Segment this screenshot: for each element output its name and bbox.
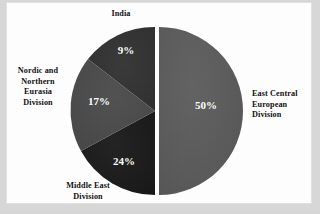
category-label-east-central-european-division: East Central European Division	[252, 89, 318, 121]
category-label-nordic-and-northern-eurasia-division: Nordic and Northern Eurasia Division	[6, 66, 70, 108]
slice-value-india: 9%	[118, 44, 135, 56]
slice-value-middle-east-division: 24%	[113, 155, 135, 167]
pie-chart-screenshot: 50% 24% 17% 9% India Nordic and Northern…	[0, 0, 320, 214]
slice-value-east-central-european-division: 50%	[195, 99, 217, 111]
pie-slice-east-central-european-division[interactable]	[159, 27, 243, 195]
category-label-india: India	[86, 9, 156, 20]
slice-value-nordic-and-northern-eurasia-division: 17%	[88, 95, 110, 107]
pie-chart-figure: 50% 24% 17% 9% India Nordic and Northern…	[0, 0, 320, 214]
category-label-middle-east-division: Middle East Division	[40, 181, 136, 202]
